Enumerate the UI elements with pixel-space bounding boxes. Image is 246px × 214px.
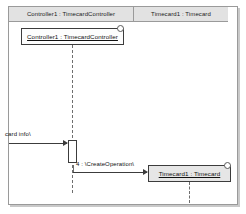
object-label-controller: Controller1 : TimecardController <box>27 33 118 40</box>
sequence-diagram-canvas: Controller1 : TimecardController Timecar… <box>0 0 246 214</box>
message-line-card-info[interactable] <box>9 143 67 144</box>
column-header-timecard[interactable]: Timecard1 : Timecard <box>134 7 228 21</box>
selection-handle-icon-timecard[interactable] <box>224 162 231 169</box>
column-header-controller[interactable]: Controller1 : TimecardController <box>9 7 134 21</box>
object-label-timecard: Timecard1 : Timecard <box>159 170 221 177</box>
message-arrowhead-icon-card-info <box>63 140 68 146</box>
message-label-card-info[interactable]: card info\ <box>5 131 31 137</box>
object-box-controller[interactable]: Controller1 : TimecardController <box>21 28 124 45</box>
lifeline-timecard <box>189 182 190 203</box>
message-line-create-operation[interactable] <box>73 172 147 173</box>
message-label-create-operation[interactable]: 4 : \CreateOperation\ <box>76 161 134 167</box>
message-origin-tick-create-operation <box>73 165 74 172</box>
selection-handle-icon-controller[interactable] <box>117 25 124 32</box>
activation-bar-controller[interactable] <box>68 140 77 163</box>
lifeline-header-band: Controller1 : TimecardController Timecar… <box>9 7 228 22</box>
object-box-timecard[interactable]: Timecard1 : Timecard <box>148 165 231 182</box>
